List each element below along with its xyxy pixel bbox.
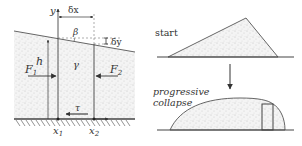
start-pile — [168, 18, 278, 57]
label-gamma: γ — [73, 59, 79, 70]
collapse-sequence-diagram: start progressive collapse — [153, 18, 294, 130]
point-x1 — [57, 118, 60, 121]
diagram-canvas: y δx β δy h γ F1 F2 τ x1 x2 start progre… — [0, 0, 302, 146]
label-dy: δy — [111, 37, 122, 47]
label-beta: β — [72, 27, 78, 37]
beta-angle-arc — [74, 38, 75, 41]
label-h: h — [36, 55, 43, 68]
label-progressive: progressive — [153, 86, 210, 97]
label-start: start — [155, 27, 178, 38]
label-y: y — [49, 5, 56, 16]
ground-hatch — [16, 120, 130, 126]
label-x2: x2 — [89, 125, 100, 138]
label-dx: δx — [68, 5, 79, 15]
label-collapse: collapse — [153, 97, 193, 108]
slope-element-diagram: y δx β δy h γ F1 F2 τ x1 x2 — [14, 5, 135, 138]
dy-marker — [104, 38, 108, 44]
label-x1: x1 — [53, 125, 63, 138]
point-x2 — [93, 118, 96, 121]
